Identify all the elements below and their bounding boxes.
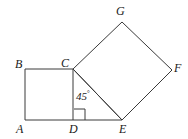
vertex-label-f: F <box>174 62 181 74</box>
square-cgfe <box>73 22 172 120</box>
vertex-label-d: D <box>69 123 78 135</box>
degree-symbol-icon: ° <box>87 89 90 97</box>
vertex-label-g: G <box>116 5 125 17</box>
vertex-label-c: C <box>61 57 69 69</box>
right-angle-marker-icon <box>74 109 85 120</box>
vertex-label-e: E <box>119 123 126 135</box>
geometry-diagram <box>0 0 188 139</box>
vertex-label-a: A <box>16 123 23 135</box>
geometry-figure-canvas: A B C D E F G 45° <box>0 0 188 139</box>
vertex-label-b: B <box>15 58 22 70</box>
square-abcd <box>25 69 73 120</box>
angle-label-45: 45° <box>76 88 90 102</box>
angle-value: 45 <box>76 90 87 102</box>
